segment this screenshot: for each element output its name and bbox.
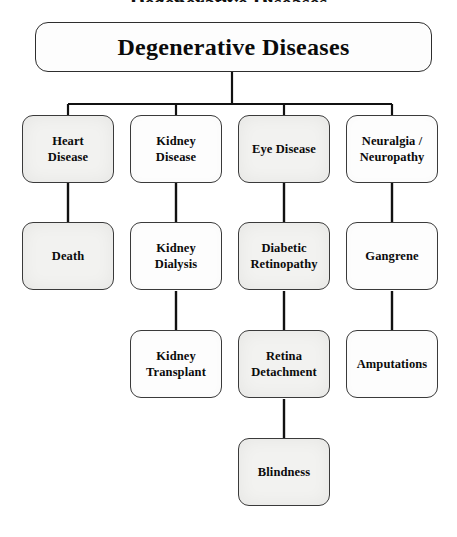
node-label-kidney-disease: Kidney Disease	[152, 133, 200, 165]
root-node-label: Degenerative Diseases	[113, 32, 353, 63]
node-kidney-transplant[interactable]: Kidney Transplant	[130, 330, 222, 398]
node-label-diabetic-retinopathy: Diabetic Retinopathy	[246, 240, 321, 272]
node-neuralgia-neuropathy[interactable]: Neuralgia / Neuropathy	[346, 115, 438, 183]
node-retina-detachment[interactable]: Retina Detachment	[238, 330, 330, 398]
top-cropped-caption: Degenerative Diseases	[0, 0, 457, 2]
node-label-heart-disease: Heart Disease	[44, 133, 92, 165]
degenerative-diseases-flowchart: Degenerative Diseases Degenerative Disea…	[0, 0, 457, 537]
node-blindness[interactable]: Blindness	[238, 438, 330, 506]
node-label-retina-detachment: Retina Detachment	[247, 348, 321, 380]
root-node-degenerative-diseases[interactable]: Degenerative Diseases	[35, 22, 432, 72]
node-diabetic-retinopathy[interactable]: Diabetic Retinopathy	[238, 222, 330, 290]
node-label-kidney-transplant: Kidney Transplant	[142, 348, 210, 380]
node-label-eye-disease: Eye Disease	[248, 141, 320, 157]
node-eye-disease[interactable]: Eye Disease	[238, 115, 330, 183]
node-label-blindness: Blindness	[254, 464, 314, 480]
node-kidney-dialysis[interactable]: Kidney Dialysis	[130, 222, 222, 290]
node-amputations[interactable]: Amputations	[346, 330, 438, 398]
node-label-neuralgia-neuropathy: Neuralgia / Neuropathy	[356, 133, 429, 165]
node-gangrene[interactable]: Gangrene	[346, 222, 438, 290]
node-kidney-disease[interactable]: Kidney Disease	[130, 115, 222, 183]
node-label-death: Death	[48, 248, 88, 264]
node-label-amputations: Amputations	[353, 356, 432, 372]
node-label-gangrene: Gangrene	[361, 248, 422, 264]
node-death[interactable]: Death	[22, 222, 114, 290]
node-label-kidney-dialysis: Kidney Dialysis	[151, 240, 201, 272]
node-heart-disease[interactable]: Heart Disease	[22, 115, 114, 183]
